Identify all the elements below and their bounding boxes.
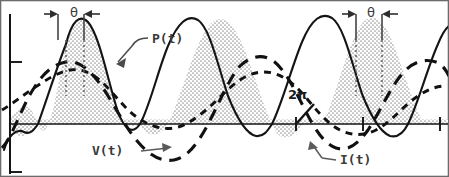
power-label: P(t) (152, 32, 183, 45)
theta-arrowhead-right-a (348, 10, 356, 18)
current-leader-line-a (322, 158, 336, 160)
theta-arrowhead-right-b (382, 10, 390, 18)
theta-arrowhead-left (50, 10, 58, 18)
voltage-label: V(t) (92, 144, 123, 157)
waveform-canvas (0, 0, 449, 177)
waveform-figure: θ θ P(t) V(t) I(t) 2π (0, 0, 449, 177)
current-label: I(t) (340, 153, 371, 166)
power-leader-line (132, 38, 148, 46)
period-label: 2π (288, 88, 307, 101)
theta-label-right: θ (367, 6, 375, 19)
theta-label-left: θ (70, 6, 78, 19)
voltage-leader-arrowhead (162, 143, 172, 152)
theta-arrowhead-right (84, 10, 92, 18)
current-leader-arrowhead (308, 141, 318, 150)
